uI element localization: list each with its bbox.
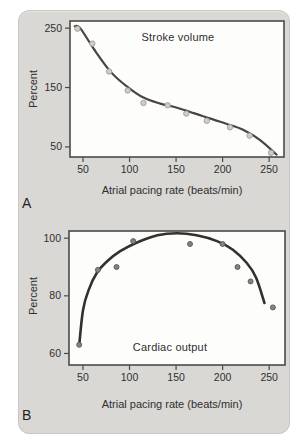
y-tick-label: 100 (43, 232, 61, 244)
x-tick-label: 250 (260, 163, 278, 175)
x-tick-label: 50 (77, 371, 89, 383)
x-tick-label: 200 (214, 163, 232, 175)
data-point (95, 267, 100, 272)
x-tick-label: 50 (77, 163, 89, 175)
x-tick-label: 150 (167, 163, 185, 175)
data-point (248, 279, 253, 284)
data-point (106, 69, 111, 74)
x-tick-label: 100 (121, 371, 139, 383)
x-tick-label: 150 (167, 371, 185, 383)
data-point (75, 26, 80, 31)
data-point (90, 41, 95, 46)
data-point (184, 111, 189, 116)
y-tick-label: 50 (50, 140, 62, 152)
data-point (268, 150, 273, 155)
panel-b-y-axis-label: Percent (27, 266, 39, 326)
data-point (220, 242, 225, 247)
data-point (188, 242, 193, 247)
data-point (77, 342, 82, 347)
data-point (165, 103, 170, 108)
y-tick-label: 80 (49, 289, 61, 301)
y-tick-label: 250 (44, 22, 62, 34)
data-point (141, 100, 146, 105)
data-point (227, 125, 232, 130)
panel-b-x-axis-label: Atrial pacing rate (beats/min) (72, 398, 272, 410)
charts-svg: 5010015020025050150250501001502002506080… (0, 0, 300, 447)
panel-b-title: Cardiac output (110, 341, 230, 353)
data-point (270, 305, 275, 310)
data-point (204, 118, 209, 123)
x-tick-label: 100 (121, 163, 139, 175)
panel-b-letter: B (22, 409, 31, 421)
x-tick-label: 200 (214, 371, 232, 383)
x-tick-label: 250 (260, 371, 278, 383)
data-point (125, 88, 130, 93)
y-tick-label: 60 (49, 347, 61, 359)
panel-a-letter: A (22, 197, 31, 209)
panel-a-y-axis-label: Percent (27, 59, 39, 119)
y-tick-label: 150 (44, 81, 62, 93)
figure-page: 5010015020025050150250501001502002506080… (0, 0, 300, 447)
panel-a-title: Stroke volume (118, 31, 238, 43)
data-point (114, 265, 119, 270)
data-point (131, 239, 136, 244)
panel-a-x-axis-label: Atrial pacing rate (beats/min) (72, 184, 272, 196)
data-point (235, 265, 240, 270)
data-point (247, 133, 252, 138)
